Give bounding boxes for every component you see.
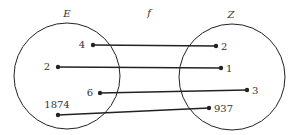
- domain-element-label: 1874: [44, 99, 69, 110]
- domain-element-label: 6: [87, 87, 93, 98]
- domain-element-label: 2: [44, 61, 50, 72]
- codomain-element-label: 3: [252, 85, 258, 96]
- domain-point: [98, 91, 102, 95]
- function-label: f: [146, 7, 153, 18]
- codomain-element-label: 2: [221, 41, 227, 52]
- domain-element-label: 4: [79, 39, 85, 50]
- domain-point: [91, 43, 95, 47]
- codomain-point: [245, 88, 249, 92]
- element-points: 4261874213937: [44, 39, 259, 117]
- mapping-line: [93, 45, 216, 46]
- codomain-set-circle: [179, 24, 285, 130]
- mapping-line: [58, 67, 221, 68]
- codomain-point: [207, 106, 211, 110]
- codomain-element-label: 1: [226, 63, 232, 74]
- mapping-line: [58, 108, 209, 115]
- domain-point: [56, 113, 60, 117]
- mapping-line: [100, 90, 247, 93]
- function-mapping-diagram: E Z f 4261874213937: [0, 0, 298, 135]
- codomain-point: [214, 44, 218, 48]
- codomain-element-label: 937: [214, 103, 233, 114]
- domain-label: E: [62, 8, 71, 19]
- domain-point: [56, 65, 60, 69]
- codomain-point: [219, 66, 223, 70]
- codomain-label: Z: [227, 9, 236, 20]
